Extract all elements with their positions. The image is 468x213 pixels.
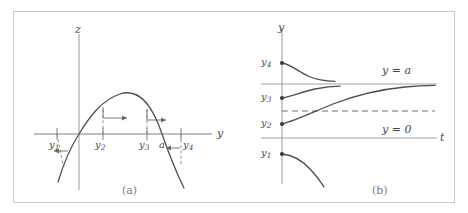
panel-b: y t y = a y = 0 y4 y3 y2 y1 (b) [239,12,454,204]
panel-a-label-y4: y4 [183,140,193,150]
initial-point-y1 [280,152,284,156]
figure-root: z y y1 y2 y3 a y4 (a) [0,0,468,213]
arrow-y2 [103,107,127,120]
solution-curve-y4 [282,63,335,81]
panel-a-label-y2: y2 [95,140,105,150]
solution-curve-y1 [282,154,324,187]
label-y-equals-a: y = a [382,64,411,77]
arrow-y3 [147,109,166,122]
panel-b-canvas [239,12,454,204]
label-y-equals-zero: y = 0 [382,123,411,136]
panel-a-label-y1: y1 [49,140,59,150]
parabola-curve [58,93,184,188]
initial-point-y3 [280,96,284,100]
panel-b-label-y2: y2 [261,118,271,128]
panel-a-canvas [14,12,239,204]
panel-a-label-a: a [159,140,165,150]
panel-b-label-y4: y4 [261,57,271,67]
panel-a-label-y3: y3 [139,140,149,150]
panel-b-y-axis-label: y [278,22,284,33]
panel-b-label-y3: y3 [261,92,271,102]
panel-a-y-axis-label: y [217,128,223,139]
panel-a-z-axis-label: z [75,24,81,35]
panel-b-t-axis-label: t [440,132,444,143]
initial-point-y4 [280,61,284,65]
initial-point-y2 [280,122,284,126]
panel-a: z y y1 y2 y3 a y4 (a) [14,12,239,204]
panel-a-caption: (a) [122,184,137,197]
figure-frame: z y y1 y2 y3 a y4 (a) [13,11,455,203]
panel-b-label-y1: y1 [261,148,271,158]
panel-b-caption: (b) [372,184,388,197]
solution-curve-y3 [282,86,340,98]
